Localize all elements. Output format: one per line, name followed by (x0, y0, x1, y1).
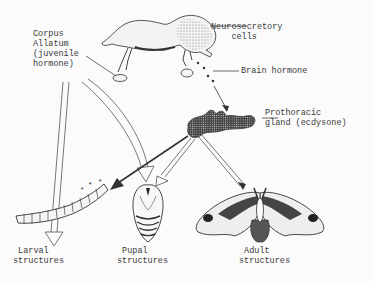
neurosecretory-cells-label: Neurosecretory cells (211, 22, 282, 42)
brain-illustration (102, 15, 216, 81)
larval-structures-label: Larval structures (13, 246, 64, 266)
pupal-structures-label: Pupal structures (117, 246, 168, 266)
pupa-illustration (133, 185, 163, 242)
adult-moth-illustration (196, 188, 324, 242)
adult-structures-label: Adult structures (239, 246, 290, 266)
larva-illustration: * * * (16, 178, 108, 224)
corpus-allatum-right (181, 69, 193, 77)
brain-hormone-label: Brain hormone (241, 66, 307, 76)
svg-text:*: * (88, 181, 92, 189)
svg-text:*: * (98, 178, 102, 186)
svg-text:*: * (80, 186, 84, 194)
prothoracic-gland-label: Prothoracic gland (ecdysone) (265, 108, 347, 128)
corpus-allatum-label: Corpus Allatum (juvenile hormone) (33, 29, 79, 69)
brain-hormone-path (197, 62, 229, 112)
prothoracic-gland (188, 110, 255, 137)
